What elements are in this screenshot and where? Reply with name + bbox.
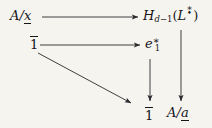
arrow-diagonal — [38, 53, 131, 103]
node-h-d-minus-1-l: Hd−1(L∗•) — [143, 8, 199, 24]
node-one-bar-upper: 1 — [30, 36, 38, 51]
node-a-mod-x: A/x — [10, 9, 31, 22]
commutative-diagram: A/x Hd−1(L∗•) 1 e∗1 1 A/a — [0, 0, 212, 128]
star-bullet-decoration: ∗• — [186, 8, 193, 20]
node-one-bar-lower: 1 — [145, 107, 153, 122]
node-e-1-star: e∗1 — [145, 36, 160, 52]
node-a-mod-a: A/a — [167, 106, 189, 119]
